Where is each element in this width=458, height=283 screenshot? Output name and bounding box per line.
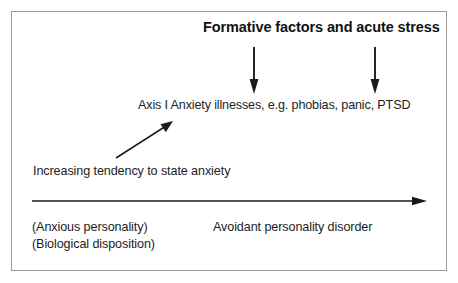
anxious-personality-label: (Anxious personality) <box>32 221 148 234</box>
axis-one-illnesses-label: Axis I Anxiety illnesses, e.g. phobias, … <box>138 99 410 112</box>
anxiety-spectrum-diagram: Formative factors and acute stress Axis … <box>0 0 458 283</box>
diagram-title: Formative factors and acute stress <box>203 20 440 35</box>
biological-disposition-label: (Biological disposition) <box>32 238 155 251</box>
increasing-tendency-label: Increasing tendency to state anxiety <box>33 165 230 178</box>
avoidant-personality-disorder-label: Avoidant personality disorder <box>213 221 372 234</box>
